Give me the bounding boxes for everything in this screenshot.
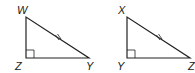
triangle-xyz: X Y Z xyxy=(117,4,195,72)
vertex-label-w: W xyxy=(17,4,29,16)
right-angle-marker-z xyxy=(26,50,34,58)
vertex-label-x: X xyxy=(117,4,126,16)
triangle-wzy: W Z Y xyxy=(14,4,94,72)
vertex-label-z: Z xyxy=(14,60,23,72)
vertex-label-y: Y xyxy=(86,60,94,72)
vertex-label-y2: Y xyxy=(117,60,125,72)
vertex-label-z2: Z xyxy=(187,60,195,72)
diagram-canvas: W Z Y X Y Z xyxy=(0,0,195,73)
right-angle-marker-y xyxy=(127,50,135,58)
